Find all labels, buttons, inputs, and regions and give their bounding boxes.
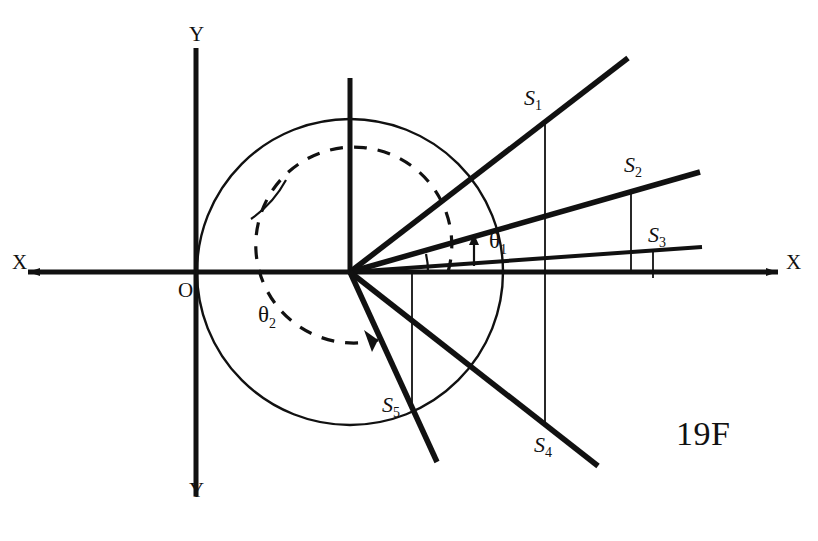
ray-s5 <box>350 272 437 462</box>
arc-shallow-pair-marker <box>426 254 428 272</box>
theta1-symbol: θ <box>489 228 500 253</box>
point-label-s1-subscript: 1 <box>535 98 542 113</box>
x-axis-label-right: X <box>786 250 801 275</box>
point-label-s4: S4 <box>534 432 552 461</box>
point-label-s3-subscript: 3 <box>659 235 666 250</box>
x-axis-label-left: X <box>12 250 27 275</box>
point-label-s2-subscript: 2 <box>635 165 642 180</box>
point-label-s1-letter: S <box>524 85 535 110</box>
point-label-s4-letter: S <box>534 432 545 457</box>
origin-label: O <box>178 278 193 303</box>
point-label-s3: S3 <box>648 222 666 251</box>
arc-upper-ray-marker <box>251 180 286 219</box>
theta2-subscript: 2 <box>269 316 276 331</box>
ray-s4 <box>350 272 598 466</box>
point-label-s2-letter: S <box>624 152 635 177</box>
y-axis-label-top: Y <box>189 22 204 47</box>
point-label-s3-letter: S <box>648 222 659 247</box>
theta2-dashed-arc <box>256 147 452 343</box>
point-label-s5-subscript: 5 <box>393 405 400 420</box>
point-label-s1: S1 <box>524 85 542 114</box>
x-axis-right-tip <box>766 268 778 276</box>
trigonometry-diagram <box>0 0 818 541</box>
theta2-label: θ2 <box>258 302 276 332</box>
figure-caption: 19F <box>676 415 730 453</box>
theta1-label: θ1 <box>489 228 507 258</box>
point-label-s5-letter: S <box>382 392 393 417</box>
point-label-s2: S2 <box>624 152 642 181</box>
figure-root: X X Y Y O S1 S2 S3 S4 S5 θ1 θ2 19F <box>0 0 818 541</box>
theta1-subscript: 1 <box>500 242 507 257</box>
theta2-symbol: θ <box>258 302 269 327</box>
point-label-s4-subscript: 4 <box>545 445 552 460</box>
y-axis-label-bottom: Y <box>189 478 204 503</box>
point-label-s5: S5 <box>382 392 400 421</box>
x-axis-left-tip <box>28 268 40 276</box>
